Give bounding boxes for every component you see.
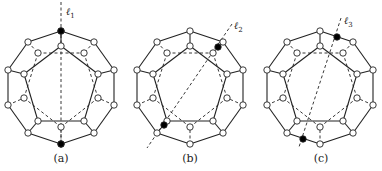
vertex	[224, 95, 230, 101]
outer-cycle-edge	[61, 31, 94, 42]
vertex	[164, 50, 170, 56]
dashed-pentagon-edge	[283, 98, 320, 127]
vertex	[35, 118, 41, 124]
vertex	[317, 141, 323, 147]
graph-figure: ℓ1 ℓ2 ℓ3 (a) (b) (c)	[0, 0, 382, 171]
vertex	[21, 71, 27, 77]
vertex	[5, 102, 11, 108]
vertex	[284, 130, 290, 136]
vertex	[294, 50, 300, 56]
vertex	[317, 28, 323, 34]
inner-pentagon-edge	[283, 46, 320, 74]
highlighted-vertex	[161, 122, 167, 128]
vertex	[340, 50, 346, 56]
vertex	[284, 39, 290, 45]
vertex	[187, 141, 193, 147]
vertex	[58, 43, 64, 49]
line-label-l2: ℓ2	[234, 20, 243, 34]
highlighted-vertex	[58, 28, 64, 34]
vertex	[134, 67, 140, 73]
vertex	[25, 130, 31, 136]
vertex	[280, 71, 286, 77]
inner-pentagon-edge	[190, 46, 227, 74]
highlighted-vertex	[58, 141, 64, 147]
figure-canvas	[0, 0, 382, 171]
vertex	[370, 67, 376, 73]
vertex	[240, 102, 246, 108]
vertex	[350, 130, 356, 136]
vertex	[350, 39, 356, 45]
dashed-pentagon-edge	[61, 98, 98, 127]
vertex	[95, 95, 101, 101]
outer-cycle-edge	[353, 105, 373, 133]
outer-cycle-edge	[157, 31, 190, 42]
outer-cycle-edge	[61, 133, 94, 144]
vertex	[95, 71, 101, 77]
vertex	[187, 124, 193, 130]
vertex	[187, 28, 193, 34]
dashed-pentagon-edge	[320, 98, 357, 127]
vertex	[220, 130, 226, 136]
vertex	[210, 118, 216, 124]
vertex	[150, 95, 156, 101]
inner-pentagon-edge	[320, 46, 357, 74]
vertex	[317, 124, 323, 130]
outer-cycle-edge	[8, 105, 28, 133]
vertex	[354, 95, 360, 101]
highlighted-vertex	[300, 136, 306, 142]
vertex	[91, 39, 97, 45]
outer-cycle-edge	[353, 42, 373, 70]
line-label-l3: ℓ3	[344, 15, 353, 29]
vertex	[111, 67, 117, 73]
vertex	[264, 102, 270, 108]
outer-cycle-edge	[320, 133, 353, 144]
outer-cycle-edge	[137, 42, 157, 70]
vertex	[354, 71, 360, 77]
vertex	[35, 50, 41, 56]
inner-pentagon-edge	[61, 46, 98, 74]
vertex	[91, 130, 97, 136]
outer-cycle-edge	[94, 105, 114, 133]
dashed-pentagon-edge	[190, 98, 227, 127]
vertex	[317, 43, 323, 49]
vertex	[240, 67, 246, 73]
outer-cycle-edge	[223, 105, 243, 133]
vertex	[210, 50, 216, 56]
outer-cycle-edge	[94, 42, 114, 70]
vertex	[21, 95, 27, 101]
inner-pentagon-edge	[153, 46, 190, 74]
vertex	[154, 130, 160, 136]
caption-b: (b)	[182, 152, 198, 165]
vertex	[187, 43, 193, 49]
outer-cycle-edge	[223, 42, 243, 70]
vertex	[111, 102, 117, 108]
vertex	[5, 67, 11, 73]
outer-cycle-edge	[157, 133, 190, 144]
dashed-pentagon-edge	[24, 98, 61, 127]
vertex	[58, 124, 64, 130]
vertex	[81, 50, 87, 56]
vertex	[81, 118, 87, 124]
vertex	[220, 39, 226, 45]
vertex	[154, 39, 160, 45]
highlighted-vertex	[334, 34, 340, 40]
caption-a: (a)	[53, 152, 68, 165]
vertex	[370, 102, 376, 108]
outer-cycle-edge	[190, 133, 223, 144]
vertex	[134, 102, 140, 108]
line-label-l1: ℓ1	[66, 6, 75, 20]
outer-cycle-edge	[267, 42, 287, 70]
outer-cycle-edge	[287, 31, 320, 42]
vertex	[150, 71, 156, 77]
caption-c: (c)	[314, 152, 329, 165]
vertex	[280, 95, 286, 101]
outer-cycle-edge	[28, 31, 61, 42]
inner-pentagon-edge	[24, 46, 61, 74]
outer-cycle-edge	[267, 105, 287, 133]
highlighted-vertex	[215, 44, 221, 50]
vertex	[340, 118, 346, 124]
outer-cycle-edge	[8, 42, 28, 70]
vertex	[25, 39, 31, 45]
outer-cycle-edge	[190, 31, 223, 42]
outer-cycle-edge	[137, 105, 157, 133]
